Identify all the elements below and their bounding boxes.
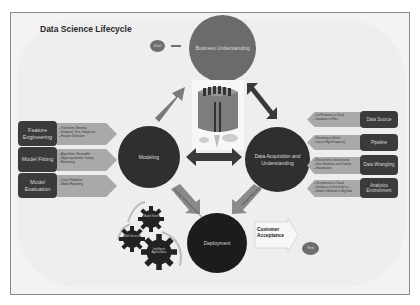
data-wrangling-details: ▪ Structured vs Unstructured ▪ Data Vali… [307, 157, 361, 174]
pipeline-details: ▪ Streaming vs Batch ▪ Low vs High Frequ… [307, 135, 361, 150]
bullet: ▪ Model Reporting [59, 182, 117, 186]
bullet: ▪ Retraining [59, 160, 117, 164]
gear-label-intelligent-applications: Intelligent Applications [146, 248, 172, 255]
arrow-modeling-data [186, 148, 242, 166]
feature-engineering-details: ▪ Transform, Binning ▪ Temporal, Text, I… [57, 123, 117, 145]
model-evaluation-details: ▪ Cross Validation ▪ Model Reporting [57, 175, 117, 197]
bullet: ▪ Low vs High Frequency [314, 141, 361, 145]
data-wrangling-box: Data Wrangling [360, 155, 398, 175]
bullet: ▪ Feature Selection [59, 134, 117, 138]
model-evaluation-box: Model Evaluation [18, 173, 57, 198]
model-fitting-box: Model Fitting [18, 147, 57, 172]
analytics-environment-box: Analytics Environment [360, 178, 398, 198]
gear-label-model-store: Model Store [141, 215, 161, 218]
data-source-box: Data Source [360, 111, 398, 128]
feature-engineering-box: Feature Engineering [18, 121, 57, 146]
bullet: ▪ Database vs Files [314, 118, 361, 122]
arrow-business-data [247, 83, 277, 119]
bullet: ▪ Visualization [314, 167, 361, 171]
data-source-details: ▪ On-Premises vs Cloud ▪ Database vs Fil… [307, 112, 361, 127]
arrow-modeling-to-business [155, 87, 185, 122]
customer-acceptance-label: Customer Acceptance [255, 225, 288, 245]
bullet: ▪ Small vs Medium vs Big Data [314, 190, 361, 194]
model-fitting-details: ▪ Algorithms, Ensemble ▪ Hyper-parameter… [57, 149, 117, 171]
analytics-environment-details: ▪ On-premises vs Cloud ▪ Database vs Dat… [307, 180, 361, 197]
gear-label-web-services: Web Services [122, 235, 142, 238]
pipeline-box: Pipeline [360, 134, 398, 151]
